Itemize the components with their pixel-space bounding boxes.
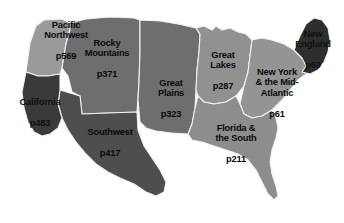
label-southwest-name: Southwest bbox=[87, 126, 132, 137]
label-rocky-mountains-name: Rocky Mountains bbox=[85, 38, 130, 59]
label-florida-and-the-south-name: Florida & the South bbox=[215, 123, 256, 144]
label-rocky-mountains[interactable]: Rocky Mountains p371 bbox=[85, 27, 130, 91]
label-california-name: California bbox=[20, 96, 61, 107]
label-california-page: p483 bbox=[20, 117, 61, 128]
label-pacific-northwest-name: Pacific Northwest bbox=[44, 20, 88, 41]
label-southwest[interactable]: Southwest p417 bbox=[87, 116, 132, 169]
label-pacific-northwest-page: p569 bbox=[44, 52, 88, 63]
label-great-plains-page: p323 bbox=[158, 110, 184, 121]
us-regions-map: Pacific Northwest p569 California p483 R… bbox=[0, 0, 344, 223]
label-new-york-mid-atlantic-name: New York & the Mid- Atlantic bbox=[256, 67, 299, 99]
label-great-plains-name: Great Plains bbox=[158, 78, 184, 99]
label-pacific-northwest[interactable]: Pacific Northwest p569 bbox=[44, 9, 88, 73]
label-california[interactable]: California p483 bbox=[20, 86, 61, 139]
label-great-lakes-page: p287 bbox=[210, 82, 235, 93]
label-new-york-mid-atlantic-page: p61 bbox=[256, 109, 299, 120]
label-great-lakes-name: Great Lakes bbox=[210, 50, 235, 71]
label-new-york-mid-atlantic[interactable]: New York & the Mid- Atlantic p61 bbox=[256, 56, 299, 130]
label-great-lakes[interactable]: Great Lakes p287 bbox=[210, 39, 235, 103]
label-new-england[interactable]: New England p69 bbox=[295, 18, 330, 82]
label-florida-and-the-south[interactable]: Florida & the South p211 bbox=[215, 112, 256, 176]
label-florida-and-the-south-page: p211 bbox=[215, 155, 256, 166]
label-southwest-page: p417 bbox=[87, 147, 132, 158]
label-new-england-page: p69 bbox=[295, 61, 330, 72]
label-rocky-mountains-page: p371 bbox=[85, 70, 130, 81]
label-new-england-name: New England bbox=[295, 29, 330, 50]
label-great-plains[interactable]: Great Plains p323 bbox=[158, 67, 184, 131]
